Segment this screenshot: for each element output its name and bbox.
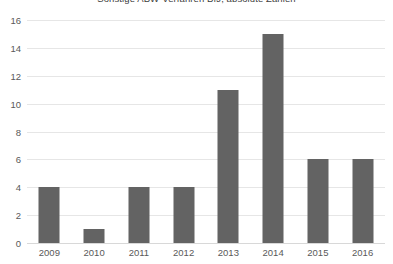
bar-2009[interactable]: [39, 187, 60, 243]
x-axis-tick-label: 2013: [218, 247, 239, 258]
bar-slot: [340, 20, 385, 243]
y-axis-tick-label: 16: [10, 15, 21, 26]
y-axis-tick-label: 14: [10, 42, 21, 53]
bar-2012[interactable]: [173, 187, 194, 243]
bar-chart: Sonstige ABW-Verfahren BfJ, absolute Zah…: [0, 0, 393, 264]
y-axis-tick-label: 2: [16, 210, 21, 221]
bar-slot: [161, 20, 206, 243]
bar-slot: [206, 20, 251, 243]
x-axis-tick-label: 2012: [173, 247, 194, 258]
bars: [27, 20, 385, 243]
x-axis-tick-label: 2010: [84, 247, 105, 258]
bar-slot: [72, 20, 117, 243]
bar-slot: [251, 20, 296, 243]
plot-area: 0246810121416: [27, 20, 385, 243]
bar-2013[interactable]: [218, 90, 239, 243]
x-axis-tick-label: 2014: [263, 247, 284, 258]
y-axis-tick-label: 10: [10, 98, 21, 109]
x-axis-tick-label: 2011: [129, 247, 149, 258]
x-axis-ticks: 20092010201120122013201420152016: [27, 247, 385, 263]
y-axis-tick-label: 0: [16, 238, 21, 249]
x-axis-tick-label: 2009: [39, 247, 60, 258]
gridline: [27, 243, 385, 244]
y-axis-tick-label: 4: [16, 182, 21, 193]
chart-title: Sonstige ABW-Verfahren BfJ, absolute Zah…: [0, 0, 393, 4]
bar-2016[interactable]: [352, 159, 373, 243]
bar-2014[interactable]: [263, 34, 284, 243]
x-axis-tick-label: 2016: [352, 247, 373, 258]
bar-slot: [27, 20, 72, 243]
bar-2010[interactable]: [84, 229, 105, 243]
bar-2015[interactable]: [307, 159, 328, 243]
bar-slot: [296, 20, 341, 243]
y-axis-tick-label: 12: [10, 70, 21, 81]
y-axis-tick-label: 8: [16, 126, 21, 137]
x-axis-tick-label: 2015: [307, 247, 328, 258]
bar-slot: [117, 20, 162, 243]
y-axis-tick-label: 6: [16, 154, 21, 165]
bar-2011[interactable]: [128, 187, 149, 243]
